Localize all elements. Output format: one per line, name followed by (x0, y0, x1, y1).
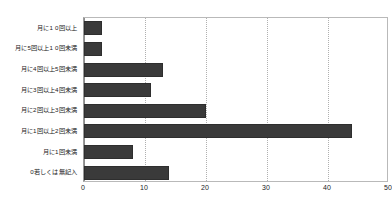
category-label: 月に4回以上5回未満 (0, 58, 80, 79)
x-tick-label: 40 (323, 184, 331, 191)
bar-row (84, 18, 387, 39)
value-axis: 0 10 20 30 40 50 (0, 184, 391, 198)
category-label: 月に1回以上2回未満 (0, 120, 80, 141)
bar (84, 21, 102, 35)
bar (84, 145, 133, 159)
bar-row (84, 142, 387, 163)
x-tick-label: 50 (384, 184, 392, 191)
bar (84, 63, 163, 77)
bar (84, 83, 151, 97)
bar-row (84, 101, 387, 122)
bar-row (84, 121, 387, 142)
x-tick-label: 30 (262, 184, 270, 191)
x-tick-label: 20 (201, 184, 209, 191)
bar-row (84, 162, 387, 183)
bar-series (84, 18, 387, 181)
category-axis: 月に1 0回以上 月に5回以上1 0回未満 月に4回以上5回未満 月に3回以上4… (0, 17, 80, 182)
category-label: 0若しくは無記入 (0, 161, 80, 182)
x-tick-label: 10 (140, 184, 148, 191)
category-label: 月に5回以上1 0回未満 (0, 38, 80, 59)
bar-row (84, 80, 387, 101)
category-label: 月に3回以上4回未満 (0, 79, 80, 100)
category-label: 月に2回以上3回未満 (0, 100, 80, 121)
bar (84, 124, 352, 138)
bar (84, 104, 206, 118)
bar (84, 42, 102, 56)
bar (84, 166, 169, 180)
bar-row (84, 39, 387, 60)
plot-area (83, 17, 388, 182)
x-tick-label: 0 (81, 184, 85, 191)
category-label: 月に1回未満 (0, 141, 80, 162)
bar-row (84, 59, 387, 80)
category-label: 月に1 0回以上 (0, 17, 80, 38)
